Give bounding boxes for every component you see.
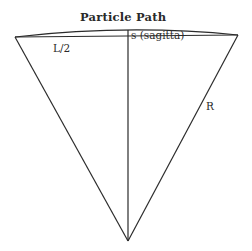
half-chord-label: L/2 — [53, 42, 70, 54]
radius-label: R — [206, 100, 215, 112]
radius-line-right — [128, 35, 238, 241]
sagitta-label: s (sagitta) — [131, 29, 184, 41]
radius-line-left — [15, 37, 128, 241]
chord-line — [15, 35, 238, 37]
diagram-title: Particle Path — [80, 10, 167, 24]
sagitta-diagram: Particle Path L/2 s (sagitta) R — [0, 0, 252, 251]
